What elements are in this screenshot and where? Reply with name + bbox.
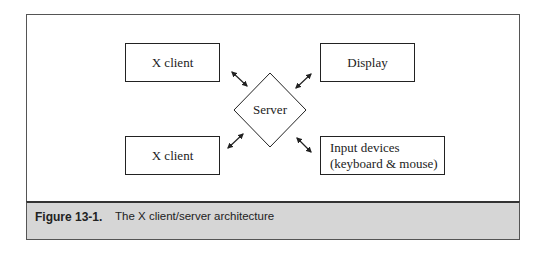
arrow-xclient-top-server bbox=[232, 72, 247, 86]
arrow-display-server bbox=[296, 74, 311, 88]
input-devices-box: Input devices (keyboard & mouse) bbox=[320, 136, 445, 175]
arrow-input-server bbox=[297, 138, 311, 152]
x-client-bottom-label: X client bbox=[152, 148, 194, 164]
server-label: Server bbox=[234, 102, 306, 118]
display-label: Display bbox=[347, 55, 387, 71]
x-client-top-box: X client bbox=[125, 43, 220, 82]
x-client-bottom-box: X client bbox=[125, 136, 220, 175]
x-client-top-label: X client bbox=[152, 55, 194, 71]
input-devices-label: Input devices bbox=[330, 140, 438, 156]
display-box: Display bbox=[320, 43, 415, 82]
figure-caption-text: The X client/server architecture bbox=[115, 210, 274, 222]
input-devices-sublabel: (keyboard & mouse) bbox=[330, 156, 438, 172]
arrow-xclient-bottom-server bbox=[228, 134, 243, 148]
figure-caption: Figure 13-1. The X client/server archite… bbox=[26, 201, 520, 240]
figure-number: Figure 13-1. bbox=[35, 210, 102, 224]
